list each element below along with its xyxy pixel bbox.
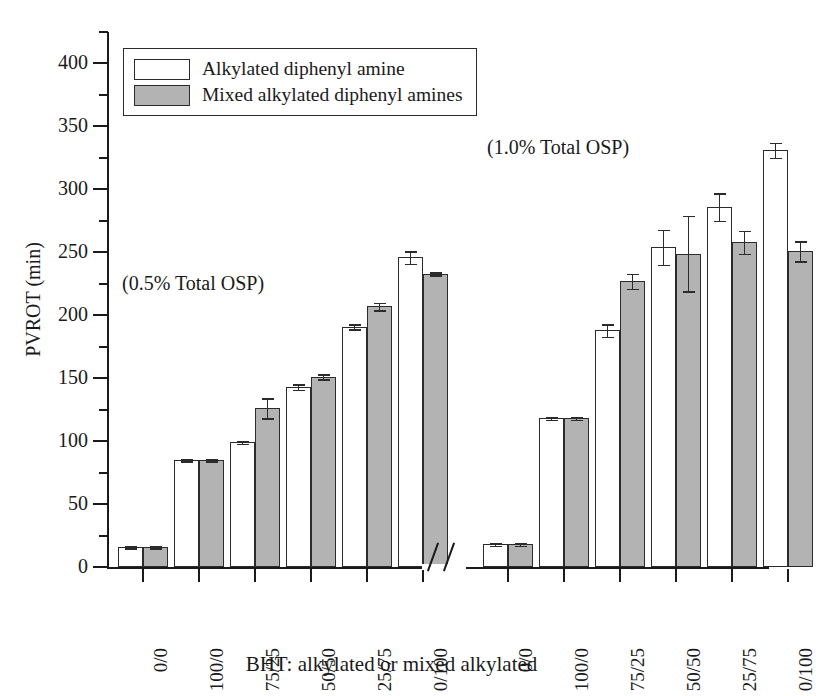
x-tick bbox=[310, 569, 312, 582]
x-tick bbox=[675, 569, 677, 582]
error-bar bbox=[607, 324, 609, 337]
bar bbox=[763, 150, 788, 567]
error-bar-cap bbox=[181, 461, 193, 463]
x-tick bbox=[619, 569, 621, 582]
error-bar bbox=[800, 241, 802, 261]
error-bar-cap bbox=[237, 444, 249, 446]
x-tick bbox=[198, 569, 200, 582]
x-axis-title: BHT: alkylated or mixed alkylated bbox=[0, 652, 783, 677]
legend-label-alkylated: Alkylated diphenyl amine bbox=[202, 59, 405, 79]
x-tick bbox=[731, 569, 733, 582]
error-bar bbox=[744, 231, 746, 254]
x-tick bbox=[366, 569, 368, 582]
bar bbox=[367, 306, 392, 567]
error-bar-cap bbox=[262, 398, 274, 400]
annotation-left-group: (0.5% Total OSP) bbox=[122, 272, 264, 295]
error-bar-cap bbox=[602, 337, 614, 339]
bar bbox=[788, 251, 813, 567]
error-bar-cap bbox=[349, 324, 361, 326]
error-bar-cap bbox=[293, 384, 305, 386]
legend: Alkylated diphenyl amine Mixed alkylated… bbox=[123, 48, 477, 116]
error-bar bbox=[688, 216, 690, 292]
bar bbox=[423, 274, 448, 567]
error-bar-cap bbox=[318, 379, 330, 381]
error-bar bbox=[410, 251, 412, 264]
error-bar-cap bbox=[627, 274, 639, 276]
error-bar-cap bbox=[181, 459, 193, 461]
error-bar-cap bbox=[770, 158, 782, 160]
y-tick-major bbox=[93, 188, 108, 190]
error-bar-cap bbox=[318, 374, 330, 376]
bar bbox=[342, 327, 367, 567]
y-tick-label: 200 bbox=[34, 304, 88, 324]
y-tick-label: 250 bbox=[34, 241, 88, 261]
bar bbox=[732, 242, 757, 567]
x-tick bbox=[142, 569, 144, 582]
bar bbox=[398, 257, 423, 567]
annotation-right-group: (1.0% Total OSP) bbox=[487, 136, 629, 159]
legend-entry-alkylated: Alkylated diphenyl amine bbox=[134, 56, 462, 82]
y-tick-minor bbox=[99, 157, 108, 159]
error-bar-cap bbox=[739, 231, 751, 233]
error-bar-cap bbox=[546, 420, 558, 422]
y-tick-major bbox=[93, 314, 108, 316]
error-bar bbox=[632, 274, 634, 289]
error-bar-cap bbox=[683, 291, 695, 293]
error-bar-cap bbox=[658, 265, 670, 267]
y-tick-label: 100 bbox=[34, 430, 88, 450]
error-bar-cap bbox=[739, 254, 751, 256]
bar bbox=[311, 377, 336, 567]
legend-swatch-gray-icon bbox=[134, 85, 190, 106]
y-tick-minor bbox=[99, 409, 108, 411]
axis-break-marker bbox=[418, 540, 470, 574]
bar bbox=[707, 207, 732, 567]
error-bar bbox=[267, 398, 269, 418]
bar bbox=[539, 418, 564, 567]
y-tick-minor bbox=[99, 283, 108, 285]
bar bbox=[143, 547, 168, 567]
error-bar-cap bbox=[349, 329, 361, 331]
y-tick-label: 350 bbox=[34, 115, 88, 135]
error-bar-cap bbox=[571, 420, 583, 422]
bar bbox=[199, 460, 224, 567]
y-tick-minor bbox=[99, 346, 108, 348]
error-bar-cap bbox=[374, 310, 386, 312]
y-tick-major bbox=[93, 251, 108, 253]
y-tick-major bbox=[93, 503, 108, 505]
bar bbox=[620, 281, 645, 567]
error-bar-cap bbox=[374, 303, 386, 305]
error-bar-cap bbox=[293, 390, 305, 392]
error-bar-cap bbox=[602, 324, 614, 326]
error-bar-cap bbox=[150, 546, 162, 548]
error-bar bbox=[719, 193, 721, 221]
y-tick-label: 0 bbox=[34, 556, 88, 576]
y-tick-major bbox=[93, 440, 108, 442]
error-bar-cap bbox=[627, 289, 639, 291]
legend-entry-mixed-alkylated: Mixed alkylated diphenyl amines bbox=[134, 82, 462, 108]
bar bbox=[676, 254, 701, 567]
error-bar-cap bbox=[795, 241, 807, 243]
bar bbox=[174, 460, 199, 567]
error-bar bbox=[775, 143, 777, 158]
bar bbox=[651, 247, 676, 567]
y-tick-label: 300 bbox=[34, 178, 88, 198]
error-bar-cap bbox=[770, 143, 782, 145]
error-bar-cap bbox=[125, 546, 137, 548]
bar bbox=[595, 330, 620, 567]
error-bar-cap bbox=[714, 221, 726, 223]
error-bar-cap bbox=[546, 417, 558, 419]
error-bar-cap bbox=[405, 264, 417, 266]
error-bar-cap bbox=[206, 461, 218, 463]
error-bar-cap bbox=[206, 459, 218, 461]
y-tick-minor bbox=[99, 94, 108, 96]
y-tick-major bbox=[93, 125, 108, 127]
bar bbox=[286, 387, 311, 567]
error-bar-cap bbox=[683, 216, 695, 218]
y-tick-label: 150 bbox=[34, 367, 88, 387]
error-bar-cap bbox=[405, 251, 417, 253]
x-tick bbox=[254, 569, 256, 582]
y-tick-label: 50 bbox=[34, 493, 88, 513]
bar bbox=[118, 547, 143, 567]
x-tick bbox=[787, 569, 789, 582]
